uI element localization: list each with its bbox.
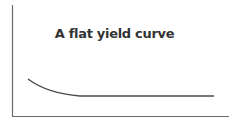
yield-curve-line xyxy=(28,79,214,96)
yield-curve-diagram: A flat yield curve xyxy=(0,0,237,124)
chart-title: A flat yield curve xyxy=(0,26,237,41)
chart-canvas xyxy=(0,0,237,124)
chart-title-text: A flat yield curve xyxy=(55,26,175,41)
